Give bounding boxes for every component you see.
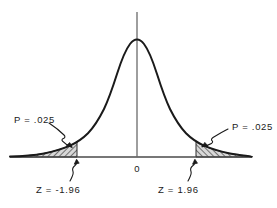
left-critical-leader xyxy=(70,159,79,181)
left-probability-label: P = .025 xyxy=(14,114,55,125)
left-critical-value-label: Z = -1.96 xyxy=(36,184,81,195)
right-probability-leader xyxy=(202,129,228,147)
normal-curve-path xyxy=(10,40,252,157)
left-probability-leader xyxy=(49,123,72,147)
normal-curve-figure: P = .025 P = .025 Z = -1.96 Z = 1.96 0 xyxy=(0,0,277,208)
left-critical-arrowhead xyxy=(74,159,79,164)
right-critical-value-label: Z = 1.96 xyxy=(158,184,199,195)
right-critical-arrowhead xyxy=(193,159,198,164)
right-critical-leader xyxy=(188,159,198,181)
normal-curve-canvas: P = .025 P = .025 Z = -1.96 Z = 1.96 0 xyxy=(0,0,277,208)
right-probability-label: P = .025 xyxy=(232,121,273,132)
origin-label: 0 xyxy=(134,163,139,174)
